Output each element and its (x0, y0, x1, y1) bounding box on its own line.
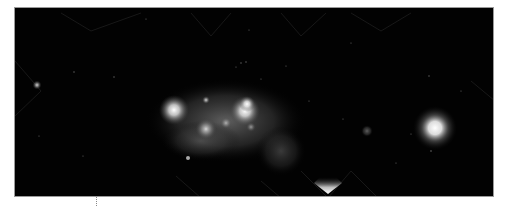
knot-small-top (202, 96, 210, 104)
bright-source-right (413, 106, 457, 150)
galaxy-rendering (15, 8, 494, 197)
astronomical-image (14, 7, 494, 197)
bottom-artifact (314, 177, 342, 194)
knot-left (159, 95, 189, 125)
knot-center (195, 118, 217, 140)
star-left (33, 81, 42, 90)
faint-patch (361, 125, 373, 137)
axis-tick-mark (96, 197, 97, 206)
